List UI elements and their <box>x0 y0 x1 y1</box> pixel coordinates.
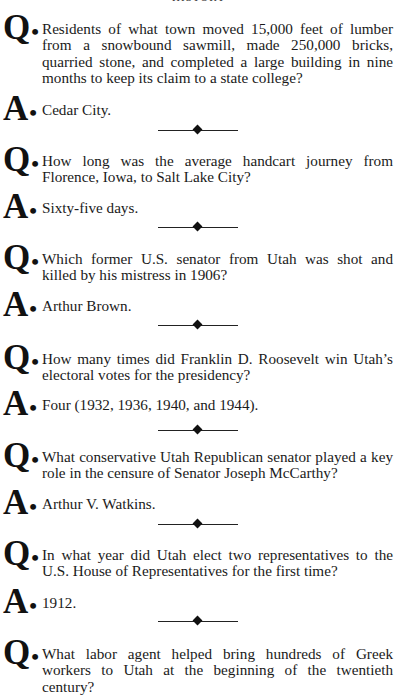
question-text: How long was the average handcart journe… <box>42 153 393 186</box>
qa-item: Q• How many times did Franklin D. Roosev… <box>0 351 398 384</box>
q-marker: Q• <box>3 438 39 477</box>
a-marker: A• <box>3 189 37 228</box>
question-text: What labor agent helped bring hundreds o… <box>42 646 393 695</box>
q-marker: Q• <box>3 340 39 379</box>
answer-text: 1912. <box>42 595 393 611</box>
section-divider <box>158 519 238 529</box>
diamond-ornament-icon <box>193 320 203 330</box>
qa-answer: A• Sixty-five days. <box>0 200 398 216</box>
section-divider <box>158 320 238 330</box>
qa-answer: A• Cedar City. <box>0 102 398 118</box>
q-marker: Q• <box>3 536 39 575</box>
qa-item: Q• In what year did Utah elect two repre… <box>0 547 398 580</box>
qa-item: Q• What conservative Utah Republican sen… <box>0 449 398 482</box>
section-divider <box>158 125 238 135</box>
qa-item: Q• What labor agent helped bring hundred… <box>0 646 398 695</box>
question-text: Which former U.S. senator from Utah was … <box>42 251 393 284</box>
qa-answer: A• Arthur V. Watkins. <box>0 496 398 512</box>
diamond-ornament-icon <box>193 222 203 232</box>
section-divider <box>158 425 238 435</box>
q-marker: Q• <box>3 10 39 49</box>
qa-item: Q• Which former U.S. senator from Utah w… <box>0 251 398 284</box>
section-divider <box>158 616 238 626</box>
section-divider <box>158 222 238 232</box>
answer-text: Arthur V. Watkins. <box>42 496 393 512</box>
answer-text: Sixty-five days. <box>42 200 393 216</box>
q-marker: Q• <box>3 635 39 674</box>
diamond-ornament-icon <box>193 519 203 529</box>
question-text: Residents of what town moved 15,000 feet… <box>42 21 393 87</box>
running-header: HISTORY <box>0 0 398 3</box>
question-text: How many times did Franklin D. Roosevelt… <box>42 351 393 384</box>
question-text: What conservative Utah Republican senato… <box>42 449 393 482</box>
answer-text: Cedar City. <box>42 102 393 118</box>
qa-answer: A• Arthur Brown. <box>0 298 398 314</box>
a-marker: A• <box>3 485 37 524</box>
question: Q• Residents of what town moved 15,000 f… <box>0 21 398 87</box>
answer-text: Arthur Brown. <box>42 298 393 314</box>
question-text: In what year did Utah elect two represen… <box>42 547 393 580</box>
diamond-ornament-icon <box>193 616 203 626</box>
qa-item: Q• Residents of what town moved 15,000 f… <box>0 21 398 87</box>
qa-answer: A• Four (1932, 1936, 1940, and 1944). <box>0 397 398 413</box>
a-marker: A• <box>3 287 37 326</box>
answer-text: Four (1932, 1936, 1940, and 1944). <box>42 397 393 413</box>
diamond-ornament-icon <box>193 425 203 435</box>
a-marker: A• <box>3 386 37 425</box>
a-marker: A• <box>3 584 37 623</box>
qa-answer: A• 1912. <box>0 595 398 611</box>
q-marker: Q• <box>3 240 39 279</box>
a-marker: A• <box>3 91 37 130</box>
q-marker: Q• <box>3 142 39 181</box>
qa-item: Q• How long was the average handcart jou… <box>0 153 398 186</box>
diamond-ornament-icon <box>193 125 203 135</box>
